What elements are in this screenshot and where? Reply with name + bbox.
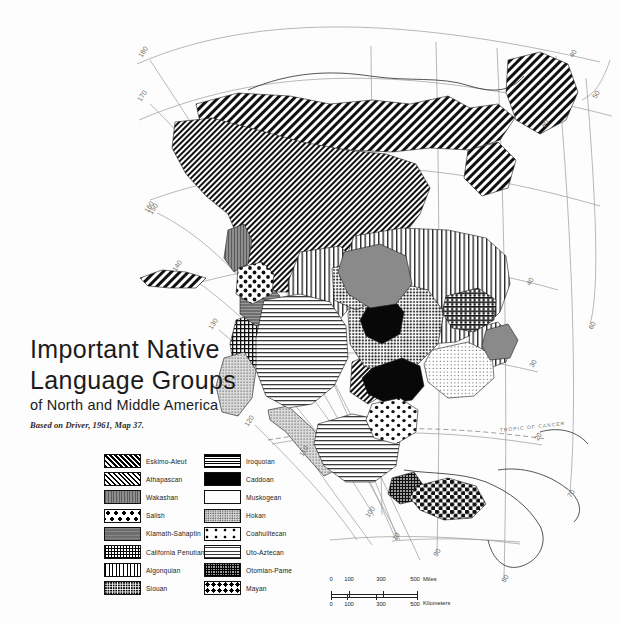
tropic-of-cancer-label: TROPIC OF CANCER	[499, 420, 565, 433]
title-block: Important Native Language Groups of Nort…	[30, 334, 285, 430]
scale-row-miles: 0100300500 Miles	[331, 576, 418, 592]
scale-unit-label-kilometers: Kilometers	[423, 600, 450, 606]
legend-item-eskimo-aleut[interactable]: Eskimo-Aleut	[104, 452, 205, 470]
graticule-label: 170	[136, 89, 148, 103]
scale-ticks-kilometers: 0100300500	[331, 601, 418, 608]
legend-item-iroquoian[interactable]: Iroquoian	[204, 452, 292, 470]
source-attribution: Based on Driver, 1961, Map 37.	[30, 420, 285, 430]
swatch-algonquian-icon	[104, 563, 141, 577]
swatch-uto-aztecan-icon	[204, 545, 241, 559]
scale-tick-label: 100	[344, 601, 354, 607]
scale-ticks-miles: 0100300500	[331, 576, 418, 583]
legend-label: Muskogean	[246, 494, 281, 501]
scale-bar: 0100300500 Miles 0100300500 Kilometers	[331, 576, 418, 610]
legend-label: Siouan	[146, 585, 167, 592]
language-regions	[140, 52, 578, 520]
swatch-mayan-icon	[204, 581, 241, 595]
legend-column-right: IroquoianCaddoanMuskogeanHokanCoahuiltec…	[204, 452, 292, 598]
scale-row-kilometers: 0100300500 Kilometers	[331, 594, 418, 610]
legend-item-coahuiltecan[interactable]: Coahuiltecan	[204, 525, 292, 543]
legend-item-caddoan[interactable]: Caddoan	[204, 470, 292, 488]
scale-tick-label: 500	[410, 576, 420, 582]
page-title-line-1: Important Native	[30, 334, 285, 365]
legend-item-klamath-sahaptin[interactable]: Klamath-Sahaptin	[104, 525, 205, 543]
legend-item-hokan[interactable]: Hokan	[204, 507, 292, 525]
swatch-siouan-icon	[104, 581, 141, 595]
legend-item-california-penutian[interactable]: California Penutian	[104, 543, 205, 561]
legend-item-siouan[interactable]: Siouan	[104, 579, 205, 597]
scale-tick-label: 300	[376, 601, 386, 607]
legend-label: Athapascan	[146, 476, 182, 483]
graticule-label: 140	[171, 259, 183, 273]
page-title-line-2: Language Groups	[30, 365, 285, 396]
graticule-label: 90	[432, 547, 442, 557]
legend-label: Uto-Aztecan	[246, 549, 284, 556]
swatch-salish-icon	[104, 509, 141, 523]
legend-label: Caddoan	[246, 476, 274, 483]
region-eskimo-aleut-labrador	[464, 142, 516, 196]
swatch-muskogean-icon	[204, 490, 241, 504]
graticule-label: 60	[587, 320, 597, 330]
legend-item-uto-aztecan[interactable]: Uto-Aztecan	[204, 543, 292, 561]
map-canvas: 1801701601501401301201101009080706050402…	[0, 0, 620, 623]
graticule-label: 30	[528, 358, 538, 368]
legend-label: Hokan	[246, 512, 266, 519]
legend-label: Klamath-Sahaptin	[146, 530, 201, 537]
legend-item-otomian-pame[interactable]: Otomian-Pame	[204, 561, 292, 579]
graticule-label: 20	[533, 431, 543, 441]
swatch-california-penutian-icon	[104, 545, 141, 559]
legend-label: Coahuiltecan	[246, 530, 286, 537]
legend-label: Algonquian	[146, 567, 181, 574]
page-subtitle: of North and Middle America	[30, 397, 285, 413]
swatch-caddoan-icon	[204, 472, 241, 486]
legend-item-wakashan[interactable]: Wakashan	[104, 488, 205, 506]
graticule-label: 130	[207, 317, 219, 331]
region-southeast-gray	[482, 324, 518, 360]
legend-item-athapascan[interactable]: Athapascan	[104, 470, 205, 488]
legend-item-muskogean[interactable]: Muskogean	[204, 488, 292, 506]
scale-tick-label: 100	[344, 576, 354, 582]
legend-item-salish[interactable]: Salish	[104, 507, 205, 525]
legend-label: California Penutian	[146, 549, 205, 556]
graticule-label: 10	[391, 531, 401, 541]
legend-label: Iroquoian	[246, 458, 275, 465]
scale-line-kilometers	[331, 594, 418, 600]
swatch-coahuiltecan-icon	[204, 527, 241, 541]
graticule-label: 50	[591, 89, 601, 99]
scale-tick-label: 0	[329, 601, 332, 607]
scale-tick-label: 300	[376, 576, 386, 582]
legend-label: Mayan	[246, 585, 267, 592]
scale-tick-label: 500	[410, 601, 420, 607]
region-coahuiltecan	[366, 398, 418, 444]
swatch-athapascan-icon	[104, 472, 141, 486]
legend-column-left: Eskimo-AleutAthapascanWakashanSalishKlam…	[104, 452, 205, 598]
legend-label: Wakashan	[146, 494, 178, 501]
graticule-label: 180	[137, 45, 149, 59]
graticule-label: 80	[500, 573, 510, 583]
scale-unit-label-miles: Miles	[423, 576, 437, 582]
legend-label: Salish	[146, 512, 165, 519]
swatch-eskimo-aleut-icon	[104, 454, 141, 468]
swatch-iroquoian-icon	[204, 454, 241, 468]
map-figure: 1801701601501401301201101009080706050402…	[0, 0, 620, 623]
graticule-label: 40	[525, 276, 535, 286]
legend-label: Eskimo-Aleut	[146, 458, 187, 465]
legend-item-algonquian[interactable]: Algonquian	[104, 561, 205, 579]
swatch-klamath-sahaptin-icon	[104, 527, 141, 541]
swatch-wakashan-icon	[104, 490, 141, 504]
swatch-otomian-pame-icon	[204, 563, 241, 577]
legend-item-mayan[interactable]: Mayan	[204, 579, 292, 597]
swatch-hokan-icon	[204, 509, 241, 523]
graticule-label: 70	[566, 488, 576, 498]
legend-label: Otomian-Pame	[246, 567, 292, 574]
graticule-label: 100	[364, 505, 376, 519]
region-muskogean	[424, 342, 494, 398]
region-eskimo-aleut-aleutians	[140, 270, 206, 288]
scale-tick-label: 0	[329, 576, 332, 582]
